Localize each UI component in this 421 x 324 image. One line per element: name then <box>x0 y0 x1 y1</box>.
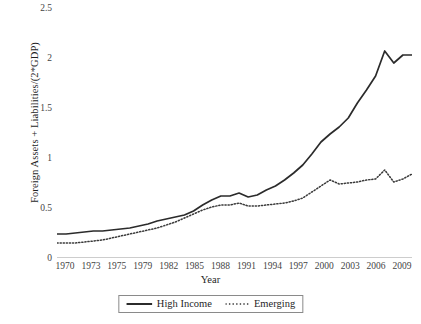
x-tick-label: 1985 <box>185 261 204 271</box>
x-tick-label: 1994 <box>263 261 282 271</box>
x-tick-label: 2006 <box>367 261 386 271</box>
x-tick-label: 1988 <box>211 261 230 271</box>
x-tick-label: 1979 <box>133 261 152 271</box>
chart-figure: Foreign Assets + Liabilities/(2*GDP) 00.… <box>0 0 421 324</box>
x-tick-label: 1973 <box>81 261 100 271</box>
y-tick-label: 1.5 <box>26 103 52 113</box>
x-tick-label: 2000 <box>315 261 334 271</box>
x-tick-label: 1970 <box>56 261 75 271</box>
y-tick-label: 2 <box>26 53 52 63</box>
legend-swatch-solid-icon <box>126 300 152 308</box>
plot-area <box>57 8 412 258</box>
x-axis-tick-labels: 1970197319751979198219851988199119941997… <box>57 261 412 275</box>
x-tick-label: 2003 <box>341 261 360 271</box>
y-tick-label: 1 <box>26 153 52 163</box>
legend-item-emerging: Emerging <box>225 298 295 309</box>
x-tick-label: 1997 <box>289 261 308 271</box>
legend-swatch-dotted-icon <box>225 300 249 308</box>
series-line-high-income <box>57 51 412 234</box>
x-tick-label: 1982 <box>159 261 178 271</box>
plot-svg <box>57 8 412 258</box>
x-tick-label: 1975 <box>107 261 126 271</box>
chart-legend: High Income Emerging <box>118 295 303 313</box>
y-tick-label: 2.5 <box>26 3 52 13</box>
y-tick-label: 0.5 <box>26 203 52 213</box>
x-tick-label: 1991 <box>237 261 256 271</box>
series-line-emerging <box>57 170 412 243</box>
legend-label-high-income: High Income <box>157 298 212 309</box>
legend-label-emerging: Emerging <box>254 298 295 309</box>
x-axis-title: Year <box>0 274 421 285</box>
x-tick-label: 2009 <box>393 261 412 271</box>
legend-item-high-income: High Income <box>126 298 212 309</box>
y-tick-label: 0 <box>26 253 52 263</box>
